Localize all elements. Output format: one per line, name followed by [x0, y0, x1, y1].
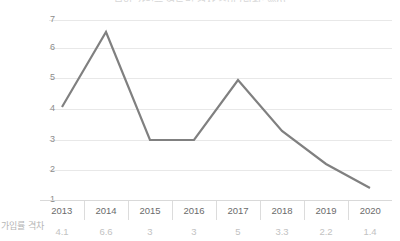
table-cell-year: 2014: [84, 201, 128, 220]
table-row-label: 가입률 격차: [0, 219, 40, 232]
chart-title: 보험 가입률 연도별 격차 추이 (단위: %p): [0, 0, 400, 2]
table-cell-year: 2018: [260, 201, 304, 220]
table-cell-value: 3: [128, 220, 172, 241]
line-chart: 보험 가입률 연도별 격차 추이 (단위: %p) 7 6 5 4 3 2 1 …: [0, 0, 400, 241]
table-cell-value: 6.6: [84, 220, 128, 241]
series-line-gap: [40, 20, 392, 200]
table-cell-year: 2015: [128, 201, 172, 220]
table-cell-value: 3: [172, 220, 216, 241]
table-cell-value: 3.3: [260, 220, 304, 241]
table-cell-value: 4.1: [40, 220, 84, 241]
table-cell-year: 2019: [304, 201, 348, 220]
table-cell-year: 2020: [348, 201, 392, 220]
data-table: 20132014201520162017201820192020 4.16.63…: [40, 200, 392, 241]
table-cell-year: 2013: [40, 201, 84, 220]
table-row: 4.16.63353.32.21.4: [40, 220, 392, 241]
table-cell-value: 1.4: [348, 220, 392, 241]
table-cell-year: 2016: [172, 201, 216, 220]
table-cell-value: 2.2: [304, 220, 348, 241]
plot-area: 7 6 5 4 3 2 1: [40, 20, 392, 200]
table-cell-year: 2017: [216, 201, 260, 220]
table-row: 20132014201520162017201820192020: [40, 201, 392, 220]
table-cell-value: 5: [216, 220, 260, 241]
